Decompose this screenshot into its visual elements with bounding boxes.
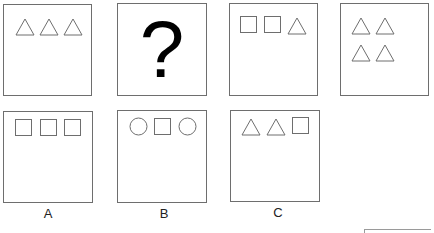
option-a-panel[interactable] bbox=[3, 111, 93, 203]
square-icon bbox=[64, 119, 82, 137]
triangle-icon bbox=[351, 17, 371, 35]
answer-box-edge bbox=[364, 229, 431, 233]
square-icon bbox=[15, 119, 33, 137]
triangle-icon bbox=[63, 18, 83, 36]
triangle-icon bbox=[375, 44, 395, 62]
option-a-label[interactable]: A bbox=[38, 206, 58, 221]
square-icon bbox=[292, 117, 310, 135]
square-icon bbox=[40, 119, 58, 137]
square-icon bbox=[264, 16, 282, 34]
triangle-icon bbox=[15, 18, 35, 36]
triangle-icon bbox=[375, 17, 395, 35]
circle-icon bbox=[129, 117, 148, 136]
circle-icon bbox=[178, 117, 197, 136]
sequence-panel-2-unknown: ? bbox=[117, 3, 207, 96]
square-icon bbox=[154, 118, 172, 136]
square-icon bbox=[240, 16, 258, 34]
sequence-panel-3 bbox=[229, 3, 318, 96]
question-mark: ? bbox=[118, 10, 206, 90]
triangle-icon bbox=[39, 18, 59, 36]
triangle-icon bbox=[351, 44, 371, 62]
triangle-icon bbox=[241, 118, 261, 136]
option-b-panel[interactable] bbox=[117, 110, 207, 203]
sequence-panel-1 bbox=[3, 4, 92, 96]
triangle-icon bbox=[287, 17, 307, 35]
triangle-icon bbox=[266, 118, 286, 136]
sequence-panel-4 bbox=[340, 3, 429, 96]
option-b-label[interactable]: B bbox=[154, 206, 174, 221]
option-c-label[interactable]: C bbox=[268, 205, 288, 220]
option-c-panel[interactable] bbox=[230, 110, 320, 202]
